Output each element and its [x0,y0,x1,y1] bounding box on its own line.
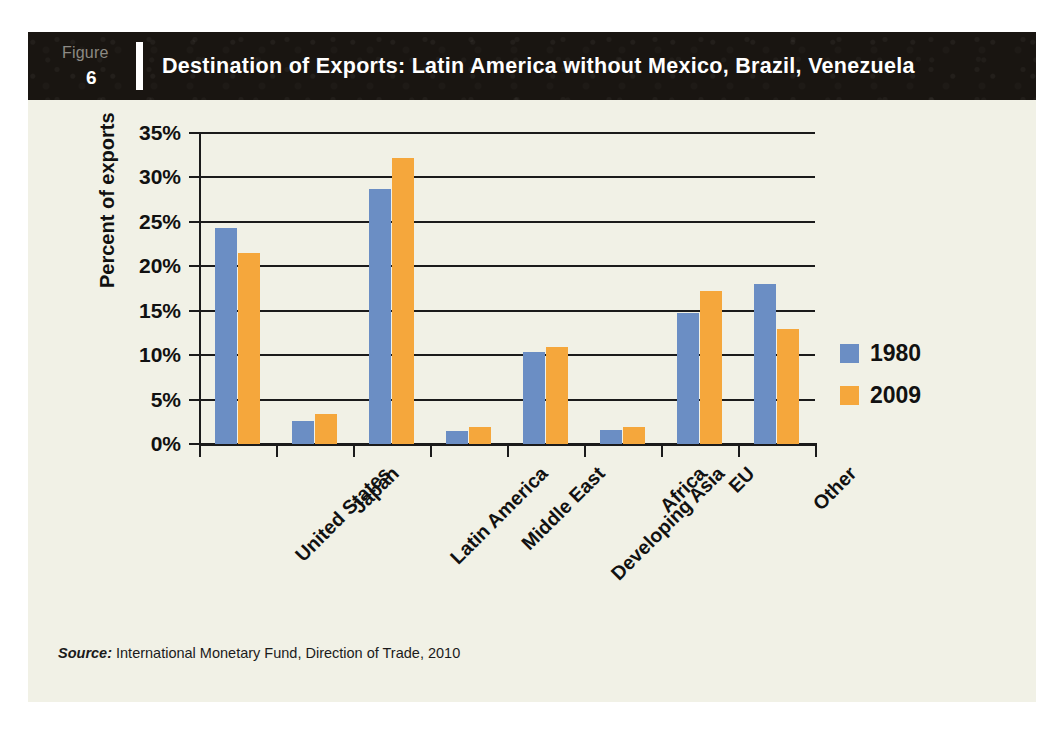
x-tick-mark [353,446,355,457]
y-tick-mark [189,221,200,223]
legend-item-2009: 2009 [840,374,921,416]
bar-group [215,133,260,444]
x-tick-mark [507,446,509,457]
figure-title: Destination of Exports: Latin America wi… [162,32,915,100]
legend-swatch [840,344,859,363]
legend-item-1980: 1980 [840,332,921,374]
legend-label: 2009 [870,382,921,409]
plot-area [199,133,815,444]
bar-1980 [292,421,314,444]
bar-group [754,133,799,444]
y-tick-label: 0% [151,432,181,456]
x-tick-mark [199,446,201,457]
bar-group [369,133,414,444]
y-tick-label: 5% [151,388,181,412]
bar-group [446,133,491,444]
bar-1980 [523,352,545,444]
y-axis-tick-labels: 35%30%25%20%15%10%5%0% [0,0,181,740]
bar-2009 [623,427,645,444]
source-prefix: Source: [58,645,112,661]
bar-1980 [600,430,622,444]
chart-legend: 19802009 [840,332,921,416]
bar-2009 [546,347,568,444]
y-tick-mark [189,354,200,356]
y-tick-mark [189,310,200,312]
bar-2009 [777,329,799,444]
y-tick-label: 30% [139,165,181,189]
bar-group [292,133,337,444]
y-tick-label: 20% [139,254,181,278]
x-tick-mark [738,446,740,457]
x-tick-mark [815,446,817,457]
y-tick-mark [189,176,200,178]
bar-1980 [754,284,776,444]
legend-swatch [840,386,859,405]
y-tick-mark [189,443,200,445]
x-tick-mark [584,446,586,457]
bar-1980 [215,228,237,444]
bar-2009 [238,253,260,444]
bar-1980 [446,431,468,444]
bar-2009 [469,427,491,444]
bar-1980 [677,313,699,445]
x-tick-mark [276,446,278,457]
y-tick-label: 25% [139,210,181,234]
y-tick-mark [189,399,200,401]
source-text: International Monetary Fund, Direction o… [116,645,460,661]
y-tick-label: 15% [139,299,181,323]
source-note: Source: International Monetary Fund, Dir… [58,645,460,661]
y-tick-mark [189,132,200,134]
y-tick-label: 10% [139,343,181,367]
y-tick-label: 35% [139,121,181,145]
x-tick-mark [661,446,663,457]
bar-group [677,133,722,444]
bar-group [600,133,645,444]
bar-2009 [700,291,722,444]
legend-label: 1980 [870,340,921,367]
bar-2009 [315,414,337,444]
y-tick-mark [189,265,200,267]
bar-1980 [369,189,391,444]
bar-group [523,133,568,444]
x-tick-mark [430,446,432,457]
figure-page: Figure 6 Destination of Exports: Latin A… [0,0,1061,740]
bar-2009 [392,158,414,444]
